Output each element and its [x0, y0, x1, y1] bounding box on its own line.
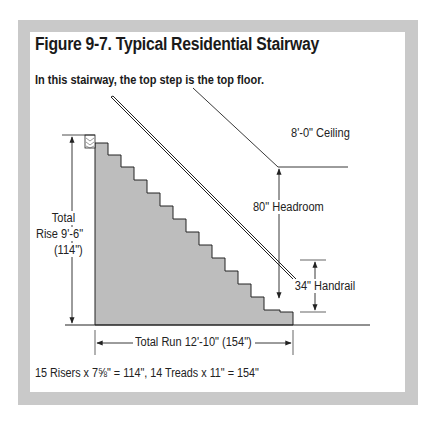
total-rise-label-2: Rise 9'-6"	[35, 227, 84, 241]
total-rise-label-3: (114")	[53, 243, 84, 257]
headroom-label: 80" Headroom	[252, 200, 325, 214]
total-rise-label-1: Total	[50, 211, 77, 225]
handrail-label: 34" Handrail	[293, 279, 357, 293]
ceiling-label: 8'-0" Ceiling	[291, 126, 350, 140]
stair-profile	[95, 143, 293, 325]
total-run-label: Total Run 12'-10" (154")	[135, 335, 252, 349]
formula-text: 15 Risers x 7⅝" = 114", 14 Treads x 11" …	[35, 366, 259, 380]
top-floor-hatch	[85, 135, 95, 148]
